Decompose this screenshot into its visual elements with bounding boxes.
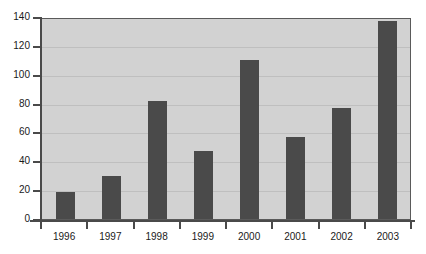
x-axis-tick-label: 2003	[365, 232, 411, 242]
y-axis-tick-label: 0	[0, 214, 30, 224]
y-axis-tick-label: 80	[0, 99, 30, 109]
bar-slot	[272, 19, 318, 219]
bar-slot	[318, 19, 364, 219]
x-axis-tick-label: 2001	[272, 232, 318, 242]
y-axis-tick	[33, 161, 40, 163]
y-axis-tick-label: 140	[0, 12, 30, 22]
bar-2003[interactable]	[378, 21, 397, 219]
x-axis-tick	[86, 222, 88, 229]
x-axis-tick-label: 1997	[87, 232, 133, 242]
plot-inner	[42, 19, 410, 219]
x-axis-tick-label: 1996	[41, 232, 87, 242]
x-axis-tick	[364, 222, 366, 229]
bar-2002[interactable]	[332, 108, 351, 219]
y-axis-tick	[33, 46, 40, 48]
bar-2001[interactable]	[286, 137, 305, 219]
y-axis-tick-label: 120	[0, 41, 30, 51]
x-axis-tick	[271, 222, 273, 229]
bar-1998[interactable]	[148, 101, 167, 219]
x-axis-tick-label: 1999	[180, 232, 226, 242]
x-axis-tick	[40, 222, 42, 229]
y-axis-tick	[33, 17, 40, 19]
y-axis-tick-label: 20	[0, 185, 30, 195]
bar-chart: 020406080100120140 199619971998199920002…	[0, 0, 426, 254]
x-axis-tick	[179, 222, 181, 229]
y-axis-tick-label: 60	[0, 127, 30, 137]
x-axis-tick	[410, 222, 412, 229]
y-axis-tick	[33, 75, 40, 77]
bar-slot	[88, 19, 134, 219]
x-axis-tick	[133, 222, 135, 229]
x-axis-tick-label: 2002	[319, 232, 365, 242]
y-axis-tick	[33, 190, 40, 192]
bar-slot	[226, 19, 272, 219]
bar-slot	[180, 19, 226, 219]
x-axis-tick-label: 2000	[226, 232, 272, 242]
bar-1997[interactable]	[102, 176, 121, 219]
bar-1996[interactable]	[56, 192, 75, 219]
y-axis-line	[40, 17, 42, 222]
bar-slot	[364, 19, 410, 219]
y-axis-tick	[33, 219, 40, 221]
bar-slot	[42, 19, 88, 219]
x-axis-tick	[318, 222, 320, 229]
y-axis-tick	[33, 132, 40, 134]
y-axis-tick	[33, 104, 40, 106]
y-axis-tick-label: 100	[0, 70, 30, 80]
bar-1999[interactable]	[194, 151, 213, 219]
bar-2000[interactable]	[240, 60, 259, 219]
x-axis-tick	[225, 222, 227, 229]
y-axis-tick-label: 40	[0, 156, 30, 166]
plot-area	[41, 18, 411, 220]
bars-layer	[42, 19, 410, 219]
bar-slot	[134, 19, 180, 219]
x-axis-tick-label: 1998	[134, 232, 180, 242]
